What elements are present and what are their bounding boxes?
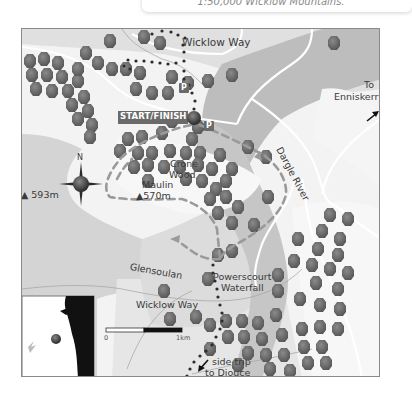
map-caption: 1:50,000 Wicklow Mountains. — [142, 0, 400, 7]
location-marker — [51, 334, 61, 344]
scale-bar — [106, 328, 182, 332]
map-frame[interactable]: Wicklow Way P P To Enniskerry Dargle Riv… — [21, 28, 380, 377]
inset-locator-map — [22, 296, 94, 377]
walking-route-map — [22, 29, 380, 377]
caption-card: 1:50,000 Wicklow Mountains. — [142, 0, 412, 12]
